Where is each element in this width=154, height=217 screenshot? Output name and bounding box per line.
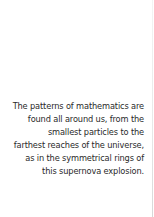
caption-line: farthest reaches of the universe, [10,139,144,152]
caption-line: The patterns of mathematics are [10,100,144,113]
figure-caption: The patterns of mathematics are found al… [10,100,144,178]
caption-line: as in the symmetrical rings of [10,152,144,165]
page-edge-divider [152,0,153,217]
caption-line: this supernova explosion. [10,165,144,178]
caption-line: smallest particles to the [10,126,144,139]
caption-line: found all around us, from the [10,113,144,126]
book-page: The patterns of mathematics are found al… [0,0,154,217]
